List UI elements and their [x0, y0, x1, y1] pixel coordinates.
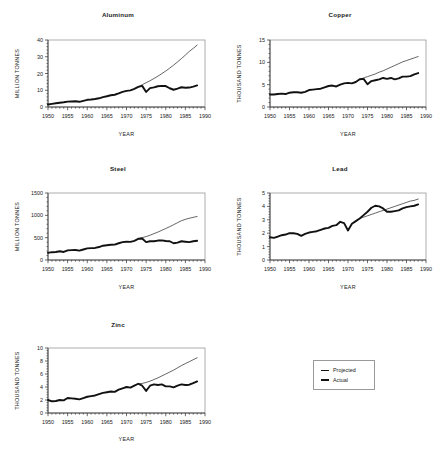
x-axis-label: YEAR	[340, 131, 356, 137]
series-line-projected	[138, 358, 197, 384]
y-tick-label: 40	[37, 37, 43, 43]
x-tick-label: 1985	[179, 113, 191, 119]
y-tick-label: 0	[40, 257, 43, 263]
x-tick-label: 1990	[420, 266, 432, 272]
y-tick-label: 8	[40, 358, 43, 364]
x-tick-label: 1950	[264, 113, 276, 119]
chart-svg-aluminum: 0102030401950195519601965197019751980198…	[0, 0, 222, 152]
y-tick-label: 4	[262, 203, 265, 209]
axis-lines	[270, 193, 426, 260]
x-tick-label: 1970	[121, 266, 133, 272]
x-tick-label: 1965	[323, 113, 335, 119]
x-tick-label: 1990	[199, 419, 211, 425]
y-axis-label: MILLION TONNES	[14, 49, 20, 99]
y-axis-label: MILLION TONNES	[14, 202, 20, 252]
chart-svg-steel: 0500100015001950195519601965197019751980…	[0, 155, 222, 310]
y-tick-label: 1	[262, 244, 265, 250]
axis-lines	[48, 40, 205, 107]
x-tick-label: 1960	[81, 419, 93, 425]
axis-lines	[270, 40, 426, 107]
x-tick-label: 1970	[121, 113, 133, 119]
x-tick-label: 1975	[140, 113, 152, 119]
x-tick-label: 1960	[303, 113, 315, 119]
chart-title: Aluminum	[102, 11, 134, 18]
x-tick-label: 1975	[140, 266, 152, 272]
chart-svg-copper: 0510151950195519601965197019751980198519…	[221, 0, 443, 152]
x-tick-label: 1980	[160, 266, 172, 272]
series-line-actual	[270, 204, 418, 238]
y-axis-label: THOUSAND TONNES	[236, 197, 242, 256]
plot-frame	[48, 348, 205, 413]
chart-panel-steel: 0500100015001950195519601965197019751980…	[0, 155, 222, 310]
legend-label-actual: Actual	[333, 377, 348, 383]
x-tick-label: 1970	[342, 113, 354, 119]
y-tick-label: 5	[262, 82, 265, 88]
x-tick-label: 1985	[401, 113, 413, 119]
x-tick-label: 1990	[420, 113, 432, 119]
series-line-actual	[48, 85, 197, 104]
x-tick-label: 1965	[101, 113, 113, 119]
x-tick-label: 1970	[342, 266, 354, 272]
x-tick-label: 1965	[101, 266, 113, 272]
x-tick-label: 1975	[140, 419, 152, 425]
x-tick-label: 1960	[81, 113, 93, 119]
x-tick-label: 1950	[42, 419, 54, 425]
chart-panel-zinc: 0246810195019551960196519701975198019851…	[0, 312, 222, 455]
series-line-actual	[270, 73, 418, 94]
x-tick-label: 1950	[264, 266, 276, 272]
x-tick-label: 1960	[81, 266, 93, 272]
legend-item-actual: Actual	[321, 377, 348, 383]
chart-legend: Projected Actual	[313, 360, 375, 390]
x-tick-label: 1975	[362, 266, 374, 272]
legend-label-projected: Projected	[333, 367, 356, 373]
y-tick-label: 2	[262, 230, 265, 236]
y-tick-label: 10	[37, 345, 43, 351]
y-tick-label: 15	[259, 37, 265, 43]
x-tick-label: 1950	[42, 266, 54, 272]
x-tick-label: 1955	[62, 113, 74, 119]
legend-swatch-actual	[321, 379, 329, 381]
x-tick-label: 1980	[381, 113, 393, 119]
y-tick-label: 0	[262, 257, 265, 263]
chart-panel-copper: 0510151950195519601965197019751980198519…	[221, 0, 443, 152]
y-tick-label: 6	[40, 371, 43, 377]
x-axis-label: YEAR	[119, 131, 135, 137]
x-tick-label: 1975	[362, 113, 374, 119]
y-axis-label: THOUSAND TONNES	[236, 44, 242, 103]
chart-title: Zinc	[111, 321, 125, 328]
x-axis-label: YEAR	[119, 436, 135, 442]
y-tick-label: 30	[37, 54, 43, 60]
x-axis-label: YEAR	[119, 284, 135, 290]
x-tick-label: 1965	[101, 419, 113, 425]
x-tick-label: 1955	[284, 266, 296, 272]
series-line-actual	[48, 381, 197, 401]
x-tick-label: 1955	[284, 113, 296, 119]
y-tick-label: 10	[37, 87, 43, 93]
series-line-projected	[138, 45, 197, 87]
chart-svg-lead: 0123451950195519601965197019751980198519…	[221, 155, 443, 310]
chart-panel-aluminum: 0102030401950195519601965197019751980198…	[0, 0, 222, 152]
chart-title: Copper	[328, 11, 351, 18]
x-tick-label: 1955	[62, 266, 74, 272]
plot-frame	[270, 193, 426, 260]
y-tick-label: 0	[40, 104, 43, 110]
y-tick-label: 3	[262, 217, 265, 223]
y-tick-label: 1500	[31, 190, 43, 196]
chart-svg-zinc: 0246810195019551960196519701975198019851…	[0, 312, 222, 455]
chart-panel-lead: 0123451950195519601965197019751980198519…	[221, 155, 443, 310]
x-tick-label: 1980	[160, 419, 172, 425]
x-tick-label: 1970	[121, 419, 133, 425]
x-tick-label: 1960	[303, 266, 315, 272]
plot-frame	[270, 40, 426, 107]
x-axis-label: YEAR	[340, 284, 356, 290]
series-line-projected	[138, 216, 197, 238]
x-tick-label: 1990	[199, 113, 211, 119]
x-tick-label: 1955	[62, 419, 74, 425]
y-axis-label: THOUSAND TONNES	[14, 351, 20, 410]
chart-title: Lead	[332, 165, 347, 172]
series-line-actual	[48, 239, 197, 253]
x-tick-label: 1990	[199, 266, 211, 272]
legend-swatch-projected	[321, 370, 329, 371]
series-line-projected	[360, 199, 419, 218]
x-tick-label: 1985	[401, 266, 413, 272]
